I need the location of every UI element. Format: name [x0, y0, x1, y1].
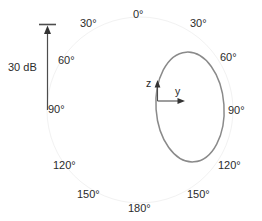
angle-label-30-left: 30°	[80, 18, 97, 29]
y-axis-label: y	[175, 86, 180, 97]
scale-bar-arrowhead-icon	[44, 26, 51, 35]
angle-label-180: 180°	[128, 203, 151, 214]
angle-label-120-left: 120°	[53, 160, 76, 171]
angle-label-30-right: 30°	[190, 18, 207, 29]
angle-label-60-left: 60°	[58, 55, 75, 66]
radiation-pattern-curve	[152, 50, 228, 164]
radiation-pattern-figure: 30 dB 0° 30° 30° 60° 60° 90° 90° 120° 12…	[0, 0, 262, 221]
angle-label-120-right: 120°	[218, 160, 241, 171]
angle-label-90-left: 90°	[48, 104, 65, 115]
z-axis-label: z	[146, 78, 151, 89]
angle-label-150-right: 150°	[187, 189, 210, 200]
scale-bar-label: 30 dB	[8, 62, 37, 73]
figure-graphics	[0, 0, 262, 221]
angle-label-0: 0°	[133, 9, 144, 20]
angle-label-150-left: 150°	[77, 189, 100, 200]
angle-guide-circle	[47, 17, 233, 203]
angle-label-60-right: 60°	[220, 52, 237, 63]
y-axis-arrowhead-icon	[178, 98, 186, 104]
angle-label-90-right: 90°	[228, 105, 245, 116]
